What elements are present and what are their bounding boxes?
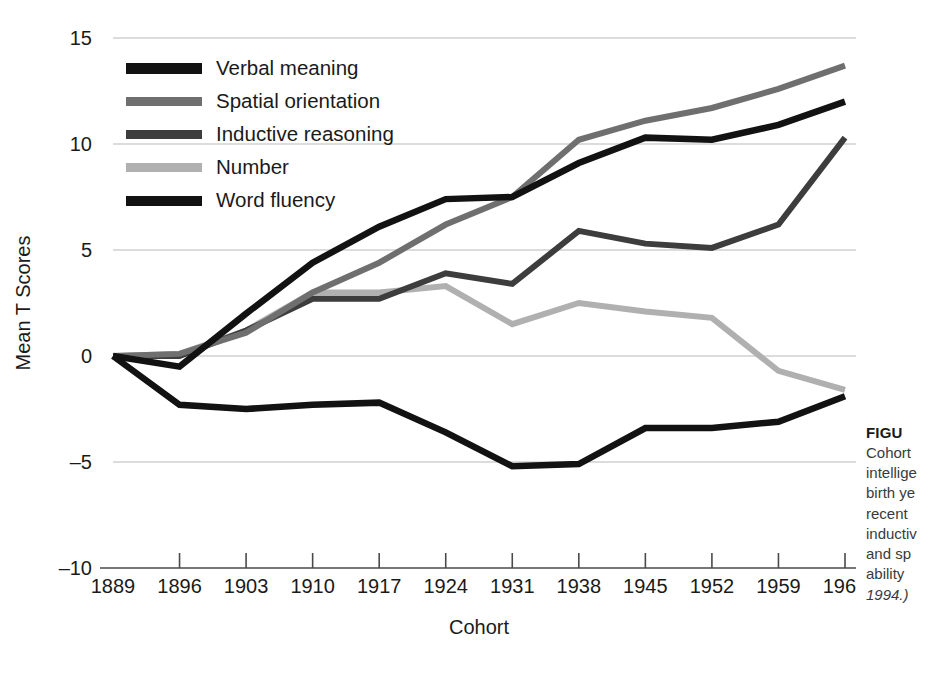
y-tick-label--5: –5 — [70, 451, 92, 473]
x-tick-label-1931: 1931 — [490, 575, 535, 597]
legend-item-label: Number — [216, 157, 289, 178]
figure-caption-heading: FIGU — [866, 424, 946, 443]
y-tick-label--10: –10 — [59, 557, 92, 579]
legend-swatch-icon — [126, 196, 202, 206]
figure-root: 1889189619031910191719241931193819451952… — [0, 0, 946, 676]
y-tick-label-0: 0 — [81, 345, 92, 367]
legend-item-label: Word fluency — [216, 190, 335, 211]
series-line-word-fluency — [113, 356, 845, 466]
figure-caption-line: birth ye — [866, 483, 946, 503]
x-tick-label-1917: 1917 — [357, 575, 402, 597]
legend-item-number[interactable]: Number — [126, 151, 456, 184]
legend-swatch-icon — [126, 97, 202, 106]
x-tick-label-1952: 1952 — [690, 575, 735, 597]
x-tick-label-1959: 1959 — [756, 575, 801, 597]
figure-caption-line: Cohort — [866, 443, 946, 463]
legend-item-label: Verbal meaning — [216, 58, 358, 79]
legend-item-label: Spatial orientation — [216, 91, 380, 112]
x-tick-labels-group: 1889189619031910191719241931193819451952… — [91, 575, 856, 597]
figure-caption-line: ability — [866, 564, 946, 584]
x-tick-label-1896: 1896 — [157, 575, 202, 597]
x-tick-label-1910: 1910 — [290, 575, 335, 597]
y-tick-label-10: 10 — [70, 133, 92, 155]
figure-caption-line: inductiv — [866, 524, 946, 544]
figure-caption-line: and sp — [866, 544, 946, 564]
x-tick-label-1903: 1903 — [224, 575, 269, 597]
x-tick-label-1945: 1945 — [623, 575, 668, 597]
x-tick-label-1924: 1924 — [423, 575, 468, 597]
y-tick-labels-group: 151050–5–10 — [59, 27, 92, 579]
legend-item-spatial-orientation[interactable]: Spatial orientation — [126, 85, 456, 118]
legend-swatch-icon — [126, 63, 202, 74]
x-tick-label-1889: 1889 — [91, 575, 136, 597]
figure-caption-line: intellige — [866, 463, 946, 483]
y-axis-title: Mean T Scores — [12, 236, 34, 371]
legend-swatch-icon — [126, 163, 202, 172]
y-tick-label-15: 15 — [70, 27, 92, 49]
legend-item-inductive-reasoning[interactable]: Inductive reasoning — [126, 118, 456, 151]
x-tick-label-1966: 1966 — [823, 575, 856, 597]
chart-panel: 1889189619031910191719241931193819451952… — [0, 0, 856, 676]
figure-caption-source: 1994.) — [866, 585, 946, 605]
legend-swatch-icon — [126, 130, 202, 139]
chart-legend: Verbal meaningSpatial orientationInducti… — [126, 52, 456, 217]
legend-item-verbal-meaning[interactable]: Verbal meaning — [126, 52, 456, 85]
y-tick-label-5: 5 — [81, 239, 92, 261]
figure-caption-line: recent — [866, 504, 946, 524]
legend-item-word-fluency[interactable]: Word fluency — [126, 184, 456, 217]
figure-caption: FIGU Cohortintelligebirth yerecentinduct… — [866, 424, 946, 605]
x-tick-marks-group — [180, 553, 845, 568]
figure-caption-body: Cohortintelligebirth yerecentinductivand… — [866, 443, 946, 605]
legend-item-label: Inductive reasoning — [216, 124, 394, 145]
x-tick-label-1938: 1938 — [557, 575, 602, 597]
x-axis-title: Cohort — [449, 616, 509, 638]
